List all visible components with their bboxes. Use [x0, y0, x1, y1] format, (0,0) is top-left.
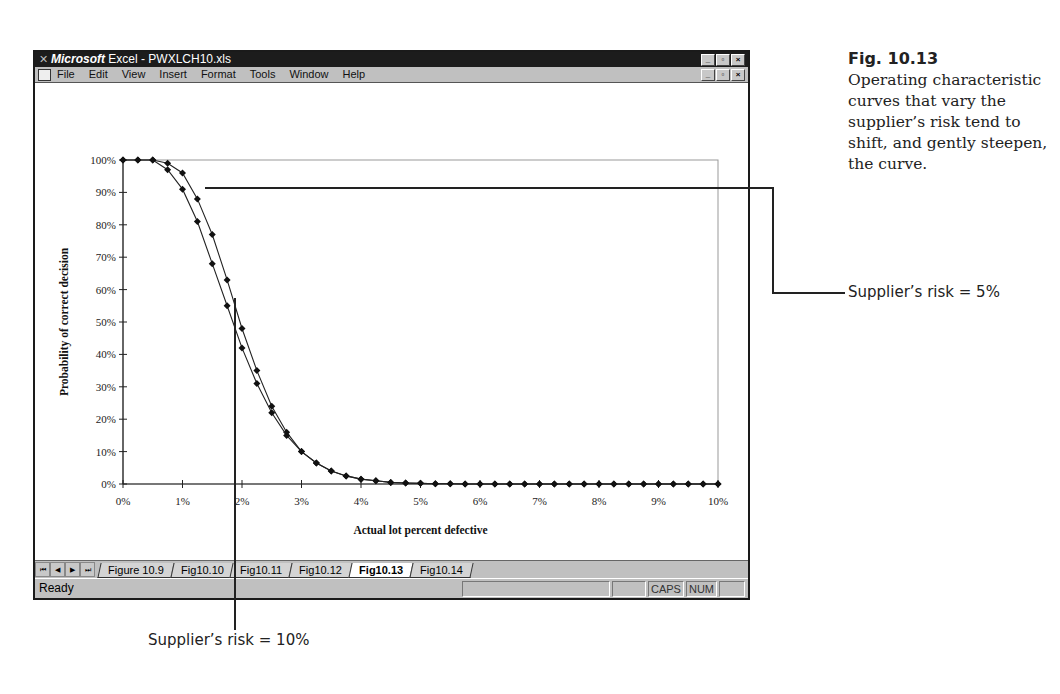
- title-brand: Microsoft: [51, 52, 105, 66]
- excel-app-icon: ✕: [39, 53, 48, 65]
- menu-format[interactable]: Format: [201, 67, 236, 82]
- menu-tools[interactable]: Tools: [250, 67, 276, 82]
- callout-risk-10: Supplier’s risk = 10%: [148, 631, 309, 649]
- menu-help[interactable]: Help: [343, 67, 366, 82]
- menu-edit[interactable]: Edit: [89, 67, 108, 82]
- first-sheet-button[interactable]: ⏮: [35, 562, 50, 577]
- menu-window[interactable]: Window: [289, 67, 328, 82]
- menu-bar: File Edit View Insert Format Tools Windo…: [35, 67, 748, 83]
- window-title: Excel - PWXLCH10.xls: [105, 52, 231, 66]
- figure-caption: Fig. 10.13 Operating characteristic curv…: [848, 48, 1048, 175]
- status-bar: Ready CAPS NUM: [35, 578, 748, 598]
- caps-indicator: CAPS: [648, 581, 684, 597]
- tab-fig10-10[interactable]: Fig10.10: [170, 563, 234, 578]
- sheet-tabs-bar: ⏮ ◀ ▶ ⏭ Figure 10.9 Fig10.10 Fig10.11 Fi…: [35, 560, 748, 578]
- tab-figure-10-9[interactable]: Figure 10.9: [97, 563, 174, 578]
- doc-restore-button[interactable]: ▫: [716, 69, 730, 81]
- prev-sheet-button[interactable]: ◀: [50, 562, 65, 577]
- status-cell-2: [612, 581, 646, 597]
- doc-close-button[interactable]: ×: [731, 69, 745, 81]
- status-cell-5: [719, 581, 745, 597]
- document-icon[interactable]: [38, 69, 51, 81]
- menu-file[interactable]: File: [57, 67, 75, 82]
- next-sheet-button[interactable]: ▶: [65, 562, 80, 577]
- status-cell-1: [462, 581, 610, 597]
- caption-text: Operating characteristic curves that var…: [848, 70, 1048, 175]
- title-bar: ✕Microsoft Excel - PWXLCH10.xls _ ▫ ×: [35, 52, 748, 67]
- chart-area[interactable]: [35, 83, 748, 561]
- restore-button[interactable]: ▫: [716, 54, 730, 66]
- tab-fig10-11[interactable]: Fig10.11: [230, 563, 293, 578]
- tab-fig10-14[interactable]: Fig10.14: [410, 563, 474, 578]
- callout-risk-5: Supplier’s risk = 5%: [848, 283, 1000, 301]
- figure-number: Fig. 10.13: [848, 48, 1048, 69]
- excel-window: ✕Microsoft Excel - PWXLCH10.xls _ ▫ × Fi…: [33, 50, 750, 600]
- menu-view[interactable]: View: [122, 67, 146, 82]
- num-indicator: NUM: [686, 581, 717, 597]
- doc-minimize-button[interactable]: _: [701, 69, 715, 81]
- last-sheet-button[interactable]: ⏭: [80, 562, 95, 577]
- tab-fig10-12[interactable]: Fig10.12: [289, 563, 353, 578]
- tab-fig10-13[interactable]: Fig10.13: [349, 563, 414, 578]
- menu-insert[interactable]: Insert: [159, 67, 187, 82]
- close-button[interactable]: ×: [731, 54, 745, 66]
- status-text: Ready: [39, 581, 74, 595]
- minimize-button[interactable]: _: [701, 54, 715, 66]
